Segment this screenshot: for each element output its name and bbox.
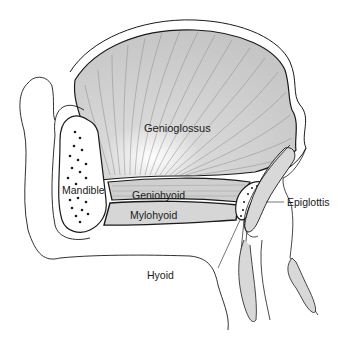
label-hyoid: Hyoid: [147, 270, 174, 281]
esophagus: [288, 258, 316, 313]
label-mylohyoid: Mylohyoid: [130, 210, 177, 221]
anatomy-figure: [0, 0, 338, 350]
label-mandible: Mandible: [62, 185, 105, 196]
lip-outline: [28, 77, 55, 120]
hyoid-leader: [218, 220, 240, 268]
label-genioglossus: Genioglossus: [144, 123, 211, 134]
label-epiglottis: Epiglottis: [287, 197, 330, 208]
label-geniohyoid: Geniohyoid: [132, 190, 185, 201]
larynx-wall: [239, 240, 257, 322]
genioglossus-muscle: [74, 30, 296, 180]
